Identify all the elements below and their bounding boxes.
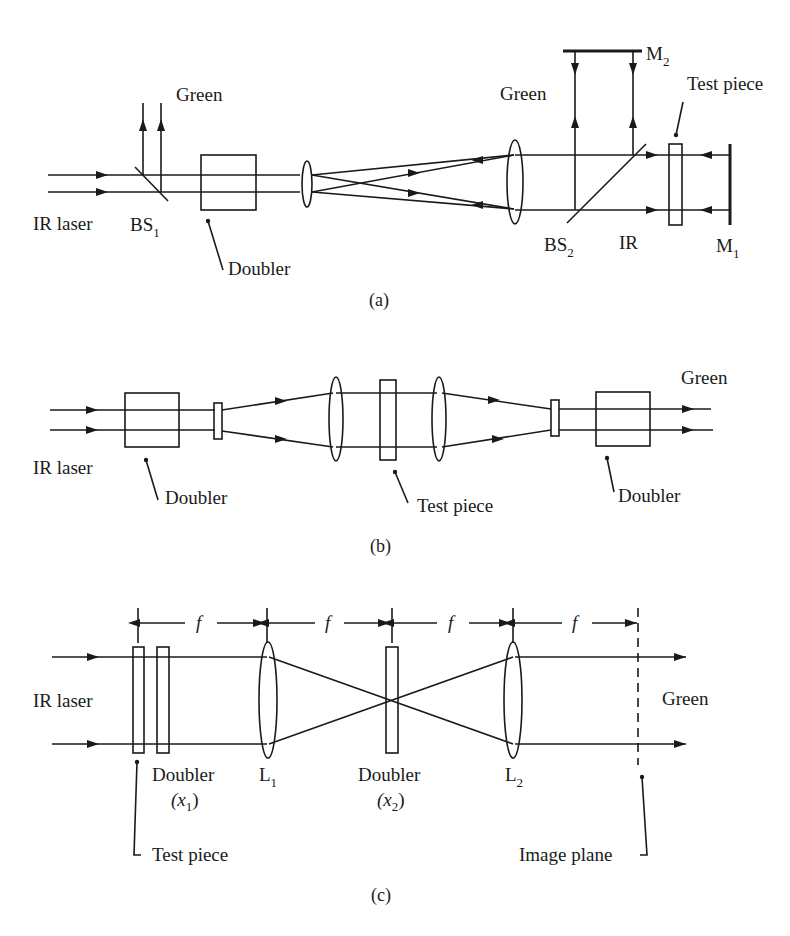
label-m1: M1	[716, 235, 739, 261]
lens-b-2	[432, 377, 446, 461]
doubler-right-box	[596, 392, 650, 446]
label-doubler-x2: Doubler	[358, 764, 421, 785]
label-green-right: Green	[500, 83, 547, 104]
label-bs2: BS2	[544, 234, 574, 260]
label-l2: L2	[505, 764, 523, 790]
label-doubler-x1: Doubler	[152, 764, 215, 785]
test-piece	[669, 144, 682, 225]
lens-l2	[504, 642, 522, 758]
label-ir: IR	[619, 232, 638, 253]
panel-b: IR laser Doubler Test piece Doubler Gree…	[33, 367, 728, 557]
caption-a: (a)	[369, 290, 389, 311]
label-green-left: Green	[176, 84, 223, 105]
label-f1: f	[196, 612, 204, 633]
label-ir-laser: IR laser	[33, 213, 93, 234]
test-piece-c	[133, 647, 144, 753]
label-m2: M2	[646, 43, 669, 69]
test-piece-b	[380, 380, 396, 460]
label-f3: f	[448, 612, 456, 633]
label-test-piece: Test piece	[417, 495, 493, 516]
beam-splitter-bs1	[135, 167, 168, 201]
label-l1: L1	[259, 764, 277, 790]
label-doubler: Doubler	[228, 258, 291, 279]
caption-c: (c)	[371, 885, 391, 906]
expander-lens-right	[551, 400, 559, 436]
doubler-left-leader	[146, 460, 158, 500]
doubler-box	[201, 155, 256, 210]
label-doubler-left: Doubler	[165, 487, 228, 508]
label-f2: f	[325, 612, 333, 633]
label-green: Green	[662, 688, 709, 709]
test-piece-leader	[134, 762, 141, 855]
panel-a: Green IR laser BS1 Doubler Green M2 Test…	[33, 43, 763, 311]
label-doubler-right: Doubler	[618, 485, 681, 506]
test-piece-leader	[395, 472, 408, 503]
label-bs1: BS1	[130, 214, 160, 240]
doubler-left-box	[125, 393, 179, 447]
label-test-piece: Test piece	[152, 844, 228, 865]
label-test-piece: Test piece	[687, 73, 763, 94]
caption-b: (b)	[370, 536, 391, 557]
label-x1: (x1)	[171, 789, 199, 814]
test-piece-leader	[676, 102, 683, 135]
large-lens	[507, 140, 523, 224]
image-plane-leader	[640, 777, 647, 855]
label-x2: (x2)	[377, 789, 405, 814]
expander-lens-left	[214, 403, 222, 439]
label-ir-laser: IR laser	[33, 457, 93, 478]
optical-setup-diagram: Green IR laser BS1 Doubler Green M2 Test…	[0, 0, 790, 936]
label-f4: f	[572, 612, 580, 633]
doubler-right-leader	[607, 458, 614, 492]
lens-b-1	[329, 377, 343, 461]
panel-c: f f f f IR laser Doubler (x1)	[33, 608, 709, 906]
doubler-leader	[208, 221, 223, 270]
beam-splitter-bs2	[567, 144, 646, 223]
doubler-x1	[157, 647, 169, 753]
label-image-plane: Image plane	[519, 844, 612, 865]
label-green: Green	[681, 367, 728, 388]
small-lens	[302, 161, 312, 207]
label-ir-laser: IR laser	[33, 690, 93, 711]
